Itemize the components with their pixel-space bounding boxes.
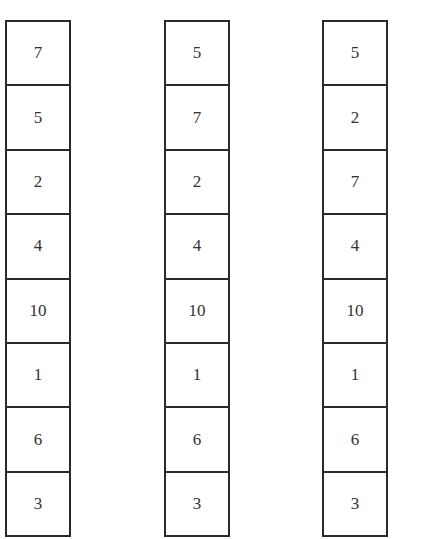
array-cell: 10 — [166, 280, 228, 344]
array-column-1: 7 5 2 4 10 1 6 3 — [5, 20, 71, 537]
array-cell: 4 — [7, 215, 69, 279]
array-cell: 2 — [166, 151, 228, 215]
array-cell: 7 — [7, 22, 69, 86]
array-column-3: 5 2 7 4 10 1 6 3 — [322, 20, 388, 537]
array-column-2: 5 7 2 4 10 1 6 3 — [164, 20, 230, 537]
array-cell: 6 — [7, 408, 69, 472]
array-cell: 2 — [7, 151, 69, 215]
array-cell: 10 — [7, 280, 69, 344]
array-cell: 4 — [166, 215, 228, 279]
array-cell: 5 — [324, 22, 386, 86]
array-cell: 3 — [7, 473, 69, 535]
array-cell: 6 — [166, 408, 228, 472]
array-cell: 3 — [166, 473, 228, 535]
array-cell: 10 — [324, 280, 386, 344]
array-cell: 7 — [166, 86, 228, 150]
array-cell: 1 — [7, 344, 69, 408]
array-cell: 2 — [324, 86, 386, 150]
array-cell: 5 — [166, 22, 228, 86]
array-cell: 3 — [324, 473, 386, 535]
array-cell: 5 — [7, 86, 69, 150]
array-cell: 4 — [324, 215, 386, 279]
array-cell: 1 — [324, 344, 386, 408]
array-cell: 6 — [324, 408, 386, 472]
array-cell: 1 — [166, 344, 228, 408]
array-cell: 7 — [324, 151, 386, 215]
